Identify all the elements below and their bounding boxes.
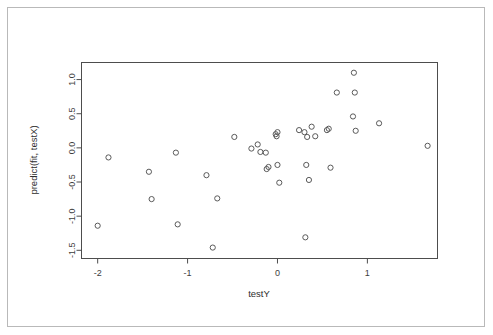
y-tick-label: -1.0 [67,208,77,224]
y-tick-label: -0.5 [67,174,77,190]
data-point [353,128,358,133]
plot-panel-border [82,63,438,259]
data-point [255,142,260,147]
data-point [303,235,308,240]
y-tick-label: 0.5 [67,107,77,120]
data-point [309,124,314,129]
data-point [352,90,357,95]
data-point [313,134,318,139]
x-tick-label: 0 [275,268,280,278]
data-point [215,196,220,201]
y-axis-title: predict(fit, testX) [28,125,39,194]
data-point [232,134,237,139]
x-axis-tick-labels: -2-101 [94,268,370,278]
data-point [173,150,178,155]
data-point [275,162,280,167]
data-point [351,70,356,75]
y-tick-label: 1.0 [67,73,77,86]
y-tick-label: 0.0 [67,142,77,155]
data-points-group [95,70,430,250]
data-point [328,165,333,170]
data-point [350,114,355,119]
data-point [296,128,301,133]
x-tick-label: -2 [94,268,102,278]
plot-svg: -2-101 1.00.50.0-0.5-1.0-1.5 testY predi… [0,0,493,335]
data-point [146,169,151,174]
x-tick-label: -1 [184,268,192,278]
plot-box-group [82,63,438,259]
data-point [304,162,309,167]
x-tick-label: 1 [365,268,370,278]
y-axis-ticks [77,80,82,251]
data-point [306,177,311,182]
data-point [305,134,310,139]
data-point [263,150,268,155]
y-tick-label: -1.5 [67,243,77,259]
y-axis-tick-labels: 1.00.50.0-0.5-1.0-1.5 [67,73,77,258]
data-point [258,149,263,154]
data-point [175,222,180,227]
data-point [149,196,154,201]
data-point [277,180,282,185]
x-axis-title: testY [248,288,270,299]
data-point [106,155,111,160]
data-point [210,245,215,250]
data-point [95,223,100,228]
data-point [334,90,339,95]
x-axis-ticks [98,259,368,264]
data-point [376,121,381,126]
data-point [425,143,430,148]
scatter-plot: -2-101 1.00.50.0-0.5-1.0-1.5 testY predi… [0,0,493,335]
data-point [204,173,209,178]
data-point [249,146,254,151]
